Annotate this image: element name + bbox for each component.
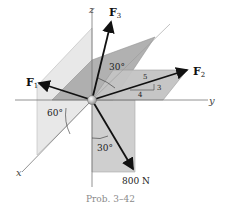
origin-ball [88,96,97,105]
slope-hyp-label: 5 [143,73,147,81]
x-axis-label: x [16,167,22,178]
y-axis-label: y [208,95,215,106]
f3-label: F3 [109,6,121,20]
force-diagram: z y x F1 F3 F2 800 N 30° 60° 30° 5 3 4 P… [0,0,225,215]
slope-rise-label: 3 [157,84,161,92]
angle-f4-label: 30° [97,143,113,153]
slope-run-label: 4 [138,91,143,99]
angle-f3-label: 30° [109,62,125,72]
f2-label: F2 [193,65,205,79]
angle-60-label: 60° [47,108,63,118]
f1-label: F1 [26,76,38,90]
figure-caption: Prob. 3–42 [86,194,135,204]
z-axis-label: z [88,4,95,15]
f4-label: 800 N [122,176,150,186]
